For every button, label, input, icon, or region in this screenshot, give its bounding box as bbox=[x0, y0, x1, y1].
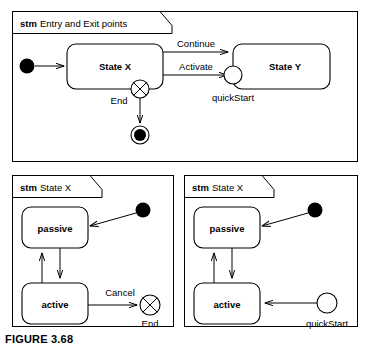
final-state bbox=[131, 126, 149, 144]
frame-keyword: stm bbox=[20, 182, 37, 193]
state-label-state-x: State X bbox=[99, 61, 132, 72]
entry-point-quickstart bbox=[317, 293, 337, 313]
entry-point-label-quickstart: quickStart bbox=[212, 92, 255, 103]
exit-point-end bbox=[140, 295, 160, 315]
exit-point-label-end: End bbox=[142, 318, 159, 329]
state-label-passive: passive bbox=[210, 223, 245, 234]
uml-state-machine-diagram: stm Entry and Exit points State X State … bbox=[0, 0, 369, 354]
figure-container: stm Entry and Exit points State X State … bbox=[0, 0, 369, 354]
state-label-passive: passive bbox=[38, 223, 73, 234]
initial-pseudostate bbox=[136, 203, 151, 218]
state-label-active: active bbox=[42, 299, 69, 310]
initial-pseudostate bbox=[20, 59, 35, 74]
frame-keyword: stm bbox=[20, 18, 37, 29]
figure-caption: FIGURE 3.68 bbox=[5, 333, 73, 345]
entry-point-quickstart bbox=[224, 66, 242, 84]
transition-label-continue: Continue bbox=[177, 38, 215, 49]
frame-keyword: stm bbox=[192, 182, 209, 193]
transition-label-activate: Activate bbox=[179, 61, 213, 72]
frame-name: Entry and Exit points bbox=[40, 18, 127, 29]
frame-name: State X bbox=[212, 182, 244, 193]
panel-state-x-exit: stm State X passive active Cancel bbox=[13, 176, 174, 330]
exit-point-end bbox=[131, 80, 149, 98]
entry-point-label-quickstart: quickStart bbox=[306, 318, 349, 329]
state-label-state-y: State Y bbox=[269, 61, 302, 72]
exit-point-label-end: End bbox=[111, 95, 128, 106]
transition-label-cancel: Cancel bbox=[105, 287, 135, 298]
state-label-active: active bbox=[214, 299, 241, 310]
initial-pseudostate bbox=[308, 203, 323, 218]
panel-state-x-entry: stm State X passive active quickStart bbox=[185, 176, 358, 330]
frame-name: State X bbox=[40, 182, 72, 193]
panel-entry-exit-points: stm Entry and Exit points State X State … bbox=[13, 12, 358, 162]
